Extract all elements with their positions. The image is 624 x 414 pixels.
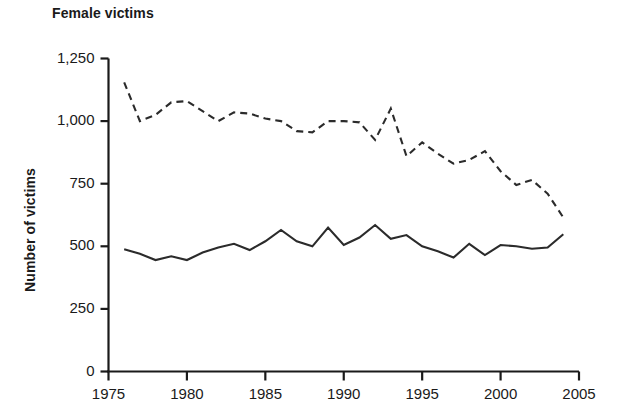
x-tick-label: 1995	[392, 385, 452, 402]
x-tick-label: 1975	[79, 385, 139, 402]
x-tick-label: 2000	[471, 385, 531, 402]
chart-figure: Female victims Number of victims 0250500…	[0, 0, 624, 414]
series-line-dashed	[124, 82, 563, 217]
y-axis-ticks	[101, 59, 109, 372]
x-tick-label: 2005	[549, 385, 609, 402]
y-tick-label: 1,000	[43, 111, 95, 128]
y-tick-label: 0	[43, 362, 95, 379]
y-tick-label: 750	[43, 174, 95, 191]
series-line-solid	[124, 225, 563, 260]
x-tick-label: 1980	[157, 385, 217, 402]
y-tick-label: 500	[43, 236, 95, 253]
x-tick-label: 1985	[235, 385, 295, 402]
x-axis-ticks	[109, 372, 580, 381]
y-tick-label: 250	[43, 299, 95, 316]
x-tick-label: 1990	[314, 385, 374, 402]
y-tick-label: 1,250	[43, 49, 95, 66]
